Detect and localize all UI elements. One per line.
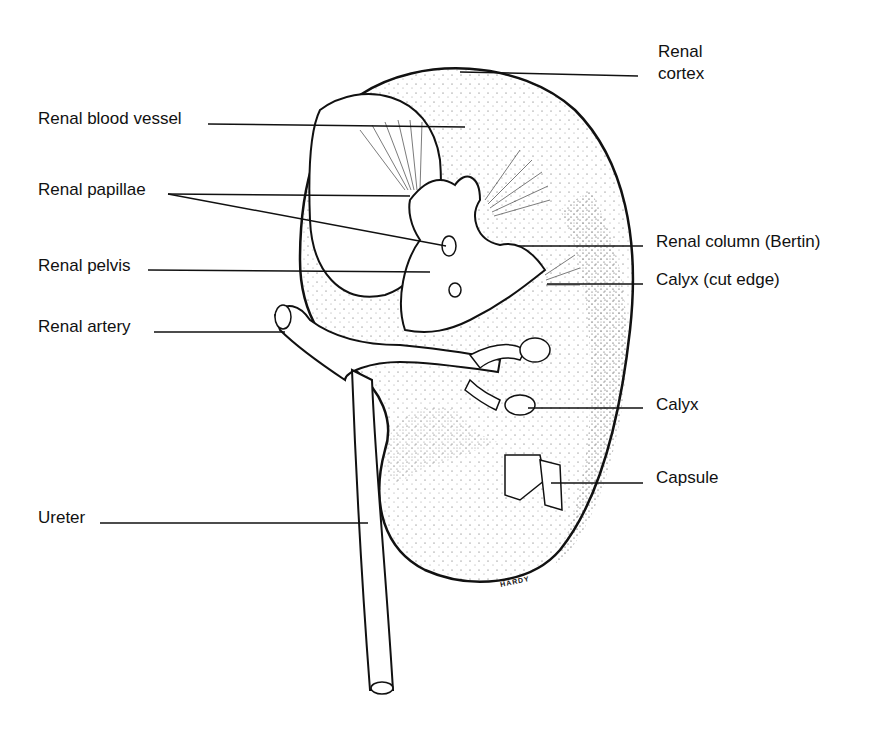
label-calyx: Calyx <box>656 395 699 415</box>
label-renal-column: Renal column (Bertin) <box>656 232 820 252</box>
label-ureter: Ureter <box>38 508 85 528</box>
label-renal-cortex-line1: Renal <box>658 42 702 62</box>
label-renal-papillae: Renal papillae <box>38 180 146 200</box>
label-capsule: Capsule <box>656 468 718 488</box>
label-renal-artery: Renal artery <box>38 317 131 337</box>
label-renal-blood-vessel: Renal blood vessel <box>38 109 182 129</box>
label-calyx-cut-edge: Calyx (cut edge) <box>656 270 780 290</box>
label-renal-cortex-line2: cortex <box>658 64 704 84</box>
label-renal-pelvis: Renal pelvis <box>38 256 131 276</box>
